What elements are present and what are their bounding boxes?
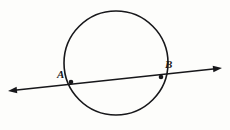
circle-shape (64, 11, 168, 115)
point-label-a: A (57, 69, 64, 80)
secant-line-shape (14, 69, 215, 91)
secant-arrowhead-right (213, 66, 222, 72)
geometry-canvas (0, 0, 230, 130)
point-label-b: B (165, 59, 172, 70)
secant-arrowhead-left (8, 87, 17, 93)
intersection-point-a (69, 80, 74, 85)
intersection-point-b (159, 75, 164, 80)
geometry-figure: A B (0, 0, 230, 130)
